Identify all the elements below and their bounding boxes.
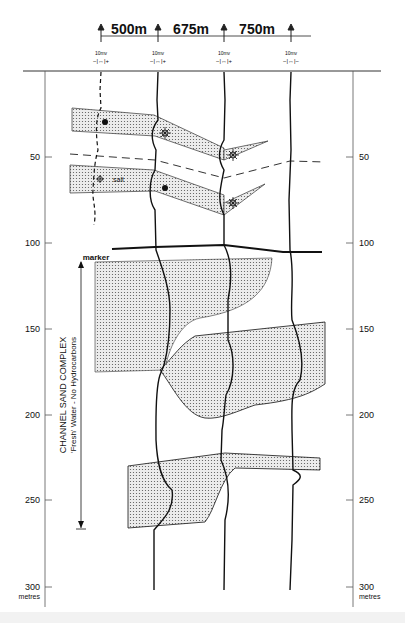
depth-tick-300-right: 300 [359,582,374,592]
upper-sand-beds [70,108,268,215]
depth-axis-right [346,71,353,607]
correlation-diagram: 500m 675m 750m 10mv 10mv 10mv 10mv −|↔|+… [0,0,405,623]
depth-tick-150-right: 150 [359,324,374,334]
marker-label: marker [83,253,110,262]
salt-label: salt [113,176,124,183]
depth-tick-250-left: 250 [25,495,40,505]
upper-sand-bed-1 [72,108,224,160]
well-3-polarity: −|↔|+ [216,58,233,64]
spacing-label-3: 750m [239,21,275,37]
well-2-scale: 10mv [152,50,165,56]
depth-tick-200-left: 200 [25,410,40,420]
well-4-polarity: −|↔|− [283,58,300,64]
well-1-polarity: −|↔|+ [93,58,110,64]
spacing-label-2: 675m [173,21,209,37]
depth-tick-50-left: 50 [30,152,40,162]
depth-axis-left [45,71,52,607]
well-1-scale: 10mv [95,50,108,56]
depth-tick-300-left: 300 [25,582,40,592]
depth-unit-right: metres [359,593,381,600]
channel-complex-annotation: CHANNEL SAND COMPLEX 'Fresh' Water - No … [58,261,86,529]
depth-unit-left: metres [19,593,41,600]
well-2-polarity: −|↔|+ [150,58,167,64]
depth-tick-150-left: 150 [25,324,40,334]
depth-tick-100-left: 100 [25,238,40,248]
oil-dot-icon [162,185,168,191]
spacing-label-1: 500m [111,21,147,37]
bottom-band [0,612,405,623]
depth-tick-200-right: 200 [359,410,374,420]
well-3-scale: 10mv [218,50,231,56]
upper-sand-pinchout-2 [224,184,265,215]
depth-tick-50-right: 50 [359,152,369,162]
channel-sand-bodies [95,258,325,528]
depth-tick-100-right: 100 [359,238,374,248]
oil-dot-icon [102,119,108,125]
well-4-scale: 10mv [285,50,298,56]
depth-tick-250-right: 250 [359,495,374,505]
channel-subtitle: 'Fresh' Water - No Hydrocarbons [69,337,78,453]
well-spacing-header: 500m 675m 750m 10mv 10mv 10mv 10mv −|↔|+… [93,21,311,64]
channel-title: CHANNEL SAND COMPLEX [58,337,68,454]
